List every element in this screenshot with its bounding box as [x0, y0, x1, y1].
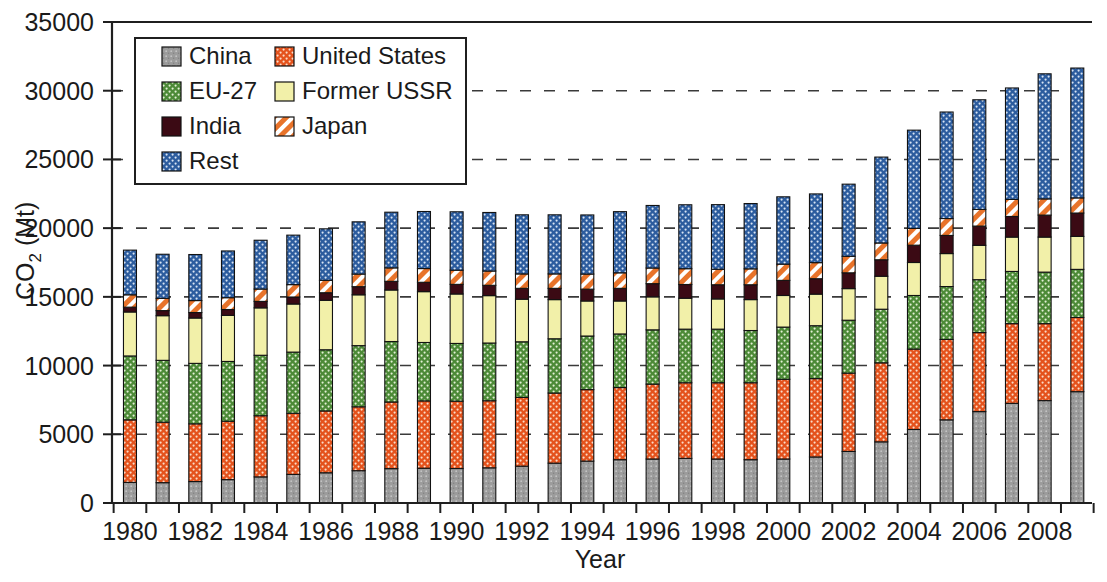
bar-segment-india	[385, 281, 398, 290]
bar-segment-former-ussr	[973, 245, 986, 279]
x-tick-label: 1990	[429, 517, 485, 545]
bar-segment-rest	[254, 240, 267, 289]
bar-segment-former-ussr	[1038, 237, 1051, 272]
bar-1996	[646, 205, 659, 503]
bar-segment-united-states	[875, 363, 888, 442]
bar-segment-japan	[1038, 199, 1051, 215]
bar-segment-china	[319, 473, 332, 503]
bar-segment-united-states	[254, 416, 267, 477]
bar-segment-china	[385, 469, 398, 503]
bar-segment-japan	[973, 209, 986, 226]
bar-segment-india	[287, 297, 300, 304]
bar-1983	[221, 251, 234, 503]
bar-segment-rest	[744, 204, 757, 269]
bar-segment-former-ussr	[907, 263, 920, 296]
bar-segment-japan	[777, 264, 790, 280]
y-tick-label: 0	[80, 489, 94, 517]
bar-segment-india	[907, 245, 920, 262]
bar-2005	[940, 112, 953, 503]
bar-segment-china	[156, 483, 169, 503]
x-tick-label: 2000	[755, 517, 811, 545]
bar-segment-india	[711, 285, 724, 299]
bar-segment-japan	[613, 273, 626, 289]
bar-1984	[254, 240, 267, 503]
bar-segment-former-ussr	[940, 254, 953, 287]
bar-segment-china	[907, 429, 920, 503]
bar-segment-japan	[450, 270, 463, 284]
bar-segment-eu-27	[385, 342, 398, 402]
bar-segment-united-states	[352, 407, 365, 471]
bar-segment-india	[1005, 216, 1018, 237]
bar-segment-india	[483, 285, 496, 295]
bar-segment-eu-27	[973, 280, 986, 333]
bar-2000	[777, 197, 790, 503]
bar-segment-united-states	[711, 383, 724, 459]
bar-segment-rest	[1005, 88, 1018, 199]
bar-segment-china	[352, 471, 365, 503]
bar-segment-united-states	[777, 379, 790, 459]
bar-1994	[581, 215, 594, 503]
bar-segment-japan	[711, 269, 724, 285]
y-tick-label: 5000	[38, 420, 94, 448]
bar-2003	[875, 157, 888, 503]
bar-segment-former-ussr	[744, 300, 757, 331]
bar-segment-eu-27	[319, 350, 332, 411]
bar-segment-india	[842, 273, 855, 289]
bar-2008	[1038, 74, 1051, 503]
bar-segment-china	[809, 457, 822, 503]
bar-segment-former-ussr	[679, 298, 692, 329]
legend-swatch-india	[162, 117, 181, 136]
bar-segment-united-states	[1005, 324, 1018, 404]
bar-segment-former-ussr	[875, 276, 888, 309]
legend-label-rest: Rest	[189, 147, 239, 174]
bar-segment-eu-27	[679, 329, 692, 383]
bar-segment-rest	[940, 112, 953, 219]
bar-1991	[483, 212, 496, 503]
bar-segment-former-ussr	[711, 299, 724, 329]
bar-2009	[1071, 68, 1084, 503]
bar-segment-japan	[319, 280, 332, 292]
bar-segment-india	[254, 301, 267, 307]
bar-segment-united-states	[221, 421, 234, 479]
bar-segment-japan	[646, 268, 659, 284]
bar-segment-eu-27	[1005, 271, 1018, 323]
bar-segment-china	[842, 451, 855, 503]
bar-segment-united-states	[123, 420, 136, 483]
legend-label-india: India	[189, 112, 242, 139]
bar-segment-united-states	[156, 422, 169, 482]
bar-segment-rest	[809, 194, 822, 263]
x-tick-label: 1982	[167, 517, 223, 545]
bar-segment-eu-27	[744, 331, 757, 383]
bar-segment-rest	[450, 212, 463, 270]
bar-segment-united-states	[450, 401, 463, 468]
bar-segment-china	[1071, 392, 1084, 503]
bar-segment-eu-27	[613, 334, 626, 388]
bar-segment-japan	[940, 219, 953, 236]
legend-label-eu-27: EU-27	[189, 77, 257, 104]
bar-2006	[973, 100, 986, 503]
bar-segment-rest	[189, 255, 202, 301]
bar-segment-china	[515, 466, 528, 503]
x-tick-label: 1998	[690, 517, 746, 545]
bar-segment-eu-27	[352, 346, 365, 407]
bar-segment-former-ussr	[1071, 236, 1084, 269]
x-tick-label: 1992	[494, 517, 550, 545]
bar-segment-united-states	[973, 333, 986, 412]
bar-segment-rest	[156, 254, 169, 298]
bar-segment-former-ussr	[646, 297, 659, 330]
bar-segment-united-states	[1071, 317, 1084, 391]
bar-segment-china	[875, 442, 888, 503]
bar-1981	[156, 254, 169, 503]
bar-segment-rest	[319, 229, 332, 281]
legend-label-united-states: United States	[302, 42, 446, 69]
bar-segment-rest	[646, 205, 659, 268]
bar-segment-eu-27	[1071, 269, 1084, 317]
bar-segment-eu-27	[189, 363, 202, 423]
bar-segment-india	[548, 288, 561, 299]
bar-segment-india	[1071, 213, 1084, 236]
bar-1987	[352, 222, 365, 503]
bar-segment-india	[809, 279, 822, 294]
bar-segment-united-states	[319, 411, 332, 473]
bar-1989	[417, 212, 430, 503]
bar-segment-china	[1005, 403, 1018, 503]
